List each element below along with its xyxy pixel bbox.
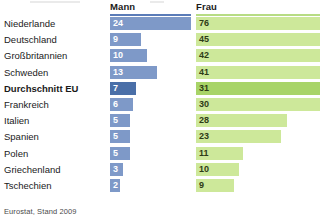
bar-mann: 13: [110, 66, 157, 79]
chart-row: Polen511: [0, 146, 320, 162]
bar-mann: 2: [110, 179, 120, 192]
bar-mann: 5: [110, 114, 130, 127]
bar-value: 5: [113, 115, 118, 126]
chart-row: Frankreich630: [0, 97, 320, 113]
row-label: Frankreich: [4, 99, 49, 111]
bar-value: 28: [199, 115, 209, 126]
bar-frau: 41: [196, 66, 320, 79]
bar-value: 41: [199, 67, 209, 78]
bar-frau: 11: [196, 147, 243, 160]
chart-row: Großbritannien1042: [0, 48, 320, 64]
bar-value: 7: [113, 83, 118, 94]
bar-mann: 10: [110, 49, 147, 62]
bar-value: 30: [199, 99, 209, 110]
row-label: Italien: [4, 115, 29, 127]
bar-frau: 42: [196, 49, 320, 62]
bar-value: 45: [199, 34, 209, 45]
row-label: Polen: [4, 148, 28, 160]
bar-mann: 5: [110, 130, 130, 143]
chart-rows: Niederlande2476Deutschland945Großbritann…: [0, 16, 320, 194]
teilzeit-bar-chart: Mann Frau Niederlande2476Deutschland945G…: [0, 0, 320, 223]
bar-frau: 30: [196, 98, 320, 111]
bar-value: 42: [199, 50, 209, 61]
bar-mann: 7: [110, 82, 136, 95]
chart-row: Niederlande2476: [0, 16, 320, 32]
row-label: Deutschland: [4, 34, 57, 46]
chart-row: Deutschland945: [0, 32, 320, 48]
bar-mann: 6: [110, 98, 133, 111]
bar-value: 11: [199, 148, 209, 159]
row-label: Schweden: [4, 67, 48, 79]
bar-frau: 76: [196, 17, 320, 30]
bar-frau: 45: [196, 33, 320, 46]
row-label: Durchschnitt EU: [4, 83, 78, 95]
bar-frau: 31: [196, 82, 320, 95]
row-label: Tschechien: [4, 180, 52, 192]
chart-row: Durchschnitt EU731: [0, 81, 320, 97]
column-header-row: Mann Frau: [0, 0, 320, 16]
bar-value: 5: [113, 148, 118, 159]
row-label: Niederlande: [4, 18, 55, 30]
chart-row: Italien528: [0, 113, 320, 129]
chart-row: Tschechien29: [0, 178, 320, 194]
bar-frau: 9: [196, 179, 234, 192]
column-header-mann: Mann: [110, 1, 135, 12]
bar-value: 6: [113, 99, 118, 110]
row-label: Großbritannien: [4, 50, 67, 62]
chart-row: Griechenland310: [0, 162, 320, 178]
bar-mann: 24: [110, 17, 191, 30]
bar-value: 13: [113, 67, 123, 78]
chart-row: Schweden1341: [0, 65, 320, 81]
chart-row: Spanien523: [0, 129, 320, 145]
bar-value: 31: [199, 83, 209, 94]
bar-frau: 23: [196, 130, 281, 143]
bar-mann: 9: [110, 33, 141, 46]
bar-value: 76: [199, 18, 209, 29]
row-label: Griechenland: [4, 164, 61, 176]
row-label: Spanien: [4, 131, 39, 143]
bar-value: 2: [113, 180, 118, 191]
bar-value: 9: [113, 34, 118, 45]
column-header-frau: Frau: [196, 1, 217, 12]
bar-value: 5: [113, 131, 118, 142]
bar-value: 23: [199, 131, 209, 142]
bar-value: 10: [113, 50, 123, 61]
bar-frau: 28: [196, 114, 287, 127]
bar-mann: 3: [110, 163, 123, 176]
bar-value: 10: [199, 164, 209, 175]
bar-value: 9: [199, 180, 204, 191]
bar-mann: 5: [110, 147, 130, 160]
bar-frau: 10: [196, 163, 239, 176]
bar-value: 3: [113, 164, 118, 175]
source-note: Eurostat, Stand 2009: [4, 207, 76, 216]
bar-value: 24: [113, 18, 123, 29]
